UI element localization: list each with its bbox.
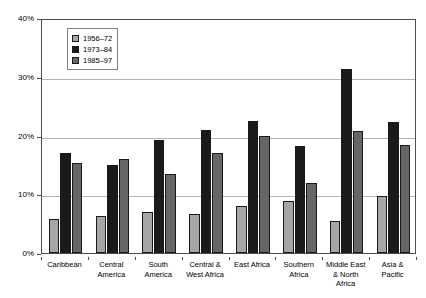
bar (60, 153, 71, 253)
bar-group (230, 20, 277, 253)
legend: 1956–721973–841985–97 (67, 28, 118, 70)
x-tick-label: SouthAmerica (135, 260, 182, 279)
bar (119, 159, 130, 253)
x-tick-label: SouthernAfrica (275, 260, 322, 279)
x-tick-label: CentralAmerica (88, 260, 135, 279)
bar (107, 165, 118, 253)
legend-label: 1973–84 (83, 45, 112, 54)
bar (388, 122, 399, 253)
bar (96, 216, 107, 253)
x-tick-label-line: & North (322, 270, 369, 280)
bar-group (276, 20, 323, 253)
y-tick-label: 20% (18, 133, 34, 141)
bar (353, 131, 364, 253)
bar (330, 221, 341, 253)
x-tick-label-line: East Africa (229, 260, 276, 270)
bar (377, 196, 388, 253)
x-tick-label: Central &West Africa (182, 260, 229, 279)
y-tick-mark (37, 254, 41, 255)
bar-chart: 0%10%20%30%40% CaribbeanCentralAmericaSo… (0, 0, 426, 298)
bar (49, 219, 60, 253)
x-tick-label-line: Pacific (369, 270, 416, 280)
x-tick-label: Middle East& NorthAfrica (322, 260, 369, 289)
legend-label: 1985–97 (83, 56, 112, 65)
legend-swatch-icon (72, 46, 79, 53)
x-tick-label: East Africa (229, 260, 276, 270)
x-tick-label-line: Central (88, 260, 135, 270)
legend-label: 1956–72 (83, 34, 112, 43)
bar (248, 121, 259, 253)
legend-item: 1973–84 (72, 44, 112, 54)
x-tick-label-line: Asia & (369, 260, 416, 270)
x-tick-label-line: West Africa (182, 270, 229, 280)
bar (341, 69, 352, 253)
legend-swatch-icon (72, 57, 79, 64)
y-tick-mark (37, 195, 41, 196)
x-tick-label-line: Africa (322, 279, 369, 289)
legend-item: 1956–72 (72, 33, 112, 43)
bar (201, 130, 212, 253)
bar (295, 146, 306, 253)
x-tick-label: Caribbean (41, 260, 88, 270)
bar (189, 214, 200, 253)
legend-swatch-icon (72, 35, 79, 42)
legend-item: 1985–97 (72, 55, 112, 65)
bar (259, 136, 270, 253)
y-tick-mark (37, 137, 41, 138)
x-tick-label-line: South (135, 260, 182, 270)
bar (154, 140, 165, 253)
bar-group (136, 20, 183, 253)
x-tick-mark (416, 257, 417, 260)
x-tick-label-line: Middle East (322, 260, 369, 270)
bar (306, 183, 317, 253)
y-tick-mark (37, 78, 41, 79)
x-tick-label-line: Central & (182, 260, 229, 270)
bar-group (183, 20, 230, 253)
bar (400, 145, 411, 253)
y-tick-label: 30% (18, 74, 34, 82)
x-tick-label-line: America (88, 270, 135, 280)
bar (142, 212, 153, 253)
y-tick-label: 40% (18, 15, 34, 23)
bar (165, 174, 176, 253)
x-tick-label: Asia &Pacific (369, 260, 416, 279)
x-axis: CaribbeanCentralAmericaSouthAmericaCentr… (41, 257, 416, 298)
bar (72, 163, 83, 253)
y-tick-label: 10% (18, 191, 34, 199)
x-tick-label-line: Africa (275, 270, 322, 280)
y-axis: 0%10%20%30%40% (0, 0, 41, 298)
x-tick-label-line: America (135, 270, 182, 280)
y-tick-mark (37, 19, 41, 20)
bar-group (370, 20, 417, 253)
y-tick-label: 0% (22, 250, 34, 258)
bar (212, 153, 223, 253)
x-tick-label-line: Southern (275, 260, 322, 270)
bar (283, 201, 294, 253)
bar (236, 206, 247, 253)
x-tick-label-line: Caribbean (41, 260, 88, 270)
bar-group (323, 20, 370, 253)
